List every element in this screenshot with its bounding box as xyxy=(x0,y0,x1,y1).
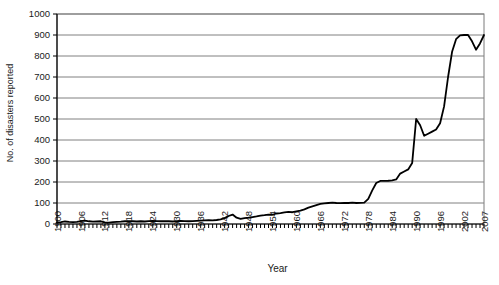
x-tick-label: 1984 xyxy=(387,211,398,232)
x-tick-label: 1990 xyxy=(411,211,422,232)
y-tick-label: 0 xyxy=(45,218,50,229)
x-tick-label: 1966 xyxy=(315,211,326,232)
x-tick-label: 1942 xyxy=(219,211,230,232)
y-tick-label: 700 xyxy=(34,71,50,82)
disasters-line-chart: No. of disasters reported 01002003004005… xyxy=(0,0,499,285)
x-tick-label: 1960 xyxy=(291,211,302,232)
y-tick-label: 300 xyxy=(34,155,50,166)
y-tick-labels: 01002003004005006007008009001000 xyxy=(29,8,50,229)
y-tick-label: 1000 xyxy=(29,8,50,19)
x-tick-label: 1972 xyxy=(339,211,350,232)
plot-svg: 01002003004005006007008009001000 1900190… xyxy=(0,0,499,285)
y-tick-label: 200 xyxy=(34,176,50,187)
y-tick-label: 800 xyxy=(34,50,50,61)
x-tick-label: 1978 xyxy=(363,211,374,232)
x-tick-label: 1948 xyxy=(243,211,254,232)
x-axis-title-text: Year xyxy=(267,263,287,274)
x-tick-label: 2002 xyxy=(459,211,470,232)
y-tick-label: 400 xyxy=(34,134,50,145)
x-tick-label: 1996 xyxy=(435,211,446,232)
x-axis-title: Year xyxy=(0,263,499,274)
y-tick-label: 600 xyxy=(34,92,50,103)
x-tick-label: 2007 xyxy=(479,211,490,232)
y-tick-label: 900 xyxy=(34,29,50,40)
y-tick-label: 100 xyxy=(34,197,50,208)
y-tick-label: 500 xyxy=(34,113,50,124)
